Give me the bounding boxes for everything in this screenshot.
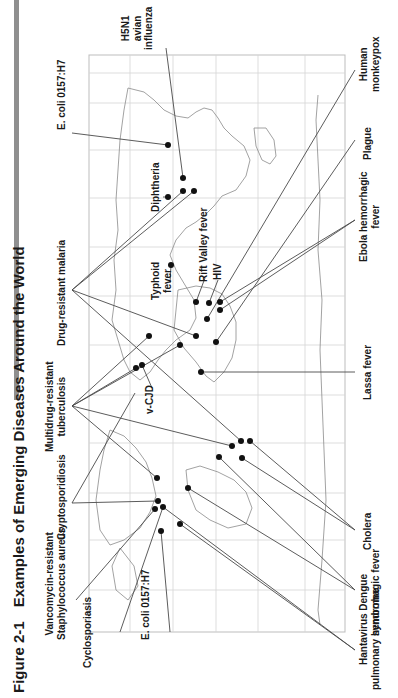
dot-tb-russia	[146, 333, 152, 339]
antarctica-outline	[316, 95, 326, 625]
dot-cyclosporiasis	[160, 504, 166, 510]
australia-outline	[254, 128, 276, 164]
label-drug-resistant-malaria: Drug-resistant malaria	[56, 240, 68, 346]
dot-dengue-2	[185, 485, 191, 491]
dot-hantavirus	[177, 521, 183, 527]
dot-lassa	[198, 369, 204, 375]
label-h5n1-avian-influenza: H5N1 avian influenza	[120, 7, 155, 50]
continent-outlines	[96, 88, 326, 625]
dot-vrsa	[152, 506, 158, 512]
dot-ebola-1	[217, 299, 223, 305]
label-mdr-tuberculosis: Multidrug-resistant tuberculosis	[44, 361, 67, 452]
dot-rift-valley	[193, 299, 199, 305]
label-human-monkeypox: Human monkeypox	[358, 36, 381, 92]
south-america-outline	[186, 466, 252, 528]
dot-h5n1	[180, 175, 186, 181]
dot-ecoli-asia	[165, 142, 171, 148]
label-cryptosporidiosis: Cryptosporidiosis	[56, 454, 68, 540]
label-rift-valley-fever: Rift Valley fever	[198, 208, 210, 282]
label-cholera: Cholera	[362, 513, 374, 550]
label-dengue: Dengue hemorrhagic fever	[358, 549, 381, 636]
dot-monkeypox	[204, 316, 210, 322]
africa-outline	[174, 286, 236, 382]
north-america-outline	[96, 430, 156, 545]
dot-cryptosporidiosis	[155, 498, 161, 504]
dot-cholera-2	[247, 438, 253, 444]
label-ecoli-americas: E. coli 0157:H7	[140, 569, 152, 640]
label-plague: Plague	[362, 127, 374, 160]
dot-ebola-2	[217, 307, 223, 313]
label-ebola: Ebola hemorrhagic fever	[358, 171, 381, 262]
dot-malaria-asia-1	[180, 188, 186, 194]
label-vcjd: v-CJD	[144, 385, 156, 414]
label-diphtheria: Diphtheria	[150, 163, 162, 212]
label-cyclosporiasis: Cyclosporiasis	[82, 597, 94, 668]
label-typhoid-fever: Typhoid fever	[150, 262, 173, 300]
dot-hiv	[206, 300, 212, 306]
dot-plague	[213, 339, 219, 345]
dot-dengue-1	[216, 454, 222, 460]
label-vrsa: Vancomycin-resistant Staphylococcus aure…	[44, 528, 67, 640]
dot-ecoli-americas	[158, 528, 164, 534]
dot-malaria-africa	[193, 333, 199, 339]
label-ecoli-asia: E. coli 0157:H7	[56, 59, 68, 130]
dot-tb-namerica	[154, 475, 160, 481]
dot-tb-samerica	[229, 443, 235, 449]
label-lassa-fever: Lassa fever	[362, 345, 374, 400]
label-hiv: HIV	[212, 263, 224, 280]
eurasia-outline	[112, 88, 250, 380]
dot-malaria-asia-2	[191, 188, 197, 194]
dot-vcjd-1	[133, 365, 139, 371]
dot-malaria-samerica	[239, 455, 245, 461]
dot-vcjd-2	[139, 362, 145, 368]
dot-tb-africa	[177, 342, 183, 348]
dot-diphtheria	[165, 194, 171, 200]
emerging-diseases-figure: Figure 2-1Examples of Emerging Diseases …	[0, 0, 398, 698]
dot-cholera-1	[238, 438, 244, 444]
